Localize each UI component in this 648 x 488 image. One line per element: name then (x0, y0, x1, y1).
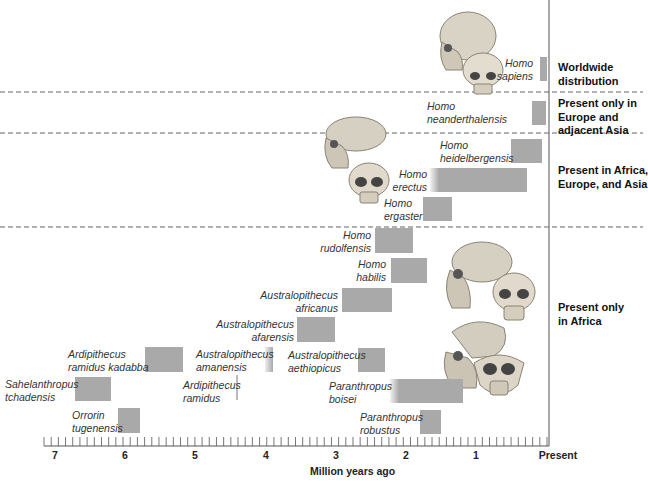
label-homo-neanderthalensis: Homoneanderthalensis (427, 100, 507, 125)
label-paranthropus-robustus: Paranthropusrobustus (360, 411, 423, 436)
label-homo-habilis: Homohabilis (356, 258, 386, 283)
label-homo-sapiens: Homosapiens (497, 57, 533, 82)
label-homo-rudolfensis: Homorudolfensis (320, 229, 371, 254)
x-tick-7: 7 (52, 449, 58, 461)
bar-paranthropus-boisei (390, 379, 463, 403)
label-ardipithecus-ramidus-kadabba: Ardipithecusramidus kadabba (68, 348, 149, 373)
skull-paranthropus-front-icon (468, 345, 530, 405)
label-sahelanthropus-tchadensis: Sahelanthropustchadensis (5, 378, 79, 403)
bar-australopithecus-afarensis (297, 317, 335, 342)
x-axis-ticks (44, 437, 547, 446)
bar-homo-heidelbergensis (511, 139, 542, 163)
bar-paranthropus-robustus (420, 410, 441, 434)
label-homo-heidelbergensis: Homoheidelbergensis (440, 139, 514, 164)
bar-homo-sapiens (540, 57, 547, 81)
label-australopithecus-africanus: Australopithecusafricanus (260, 289, 338, 314)
bar-sahelanthropus-tchadensis (75, 377, 111, 401)
region-label-europe-asia: Present only inEurope andadjacent Asia (558, 97, 637, 138)
x-tick-3: 3 (333, 449, 339, 461)
bar-homo-neanderthalensis (532, 101, 546, 125)
x-tick-4: 4 (263, 449, 269, 461)
label-australopithecus-afarensis: Australopithecusafarensis (216, 318, 294, 343)
x-axis-title: Million years ago (310, 465, 395, 477)
region-label-africa-only: Present onlyin Africa (558, 301, 624, 328)
label-ardipithecus-ramidus: Ardipithecusramidus (183, 379, 241, 404)
label-orrorin-tugenensis: Orrorintugenensis (72, 409, 123, 434)
label-paranthropus-boisei: Paranthropusboisei (329, 380, 392, 405)
label-australopithecus-amanensis: Australopithecusamanensis (196, 348, 274, 373)
bar-ardipithecus-ramidus-kadabba (145, 347, 183, 372)
region-label-worldwide: Worldwidedistribution (558, 61, 619, 88)
label-homo-ergaster: Homoergaster (384, 197, 423, 222)
bar-homo-habilis (391, 258, 427, 283)
bar-australopithecus-africanus (342, 288, 392, 312)
x-tick-present: Present (539, 449, 578, 461)
x-tick-2: 2 (403, 449, 409, 461)
x-tick-6: 6 (122, 449, 128, 461)
bar-homo-ergaster (423, 197, 452, 221)
x-tick-1: 1 (473, 449, 479, 461)
x-tick-5: 5 (192, 449, 198, 461)
label-homo-erectus: Homoerectus (393, 168, 427, 193)
label-australopithecus-aethiopicus: Australopithecusaethiopicus (288, 349, 366, 374)
region-label-africa-europe-asia: Present in Africa,Europe, and Asia (558, 164, 648, 191)
bar-homo-rudolfensis (375, 228, 413, 253)
bar-homo-erectus (430, 168, 527, 192)
